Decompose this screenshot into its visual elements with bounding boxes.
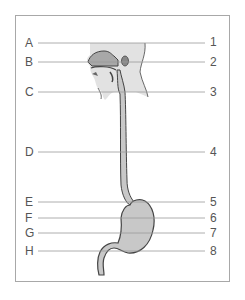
label-1: 1 [210,36,217,48]
label-d: D [25,146,34,158]
stomach [98,200,155,275]
label-e: E [25,196,33,208]
label-4: 4 [210,146,217,158]
label-5: 5 [210,196,217,208]
label-8: 8 [210,245,217,257]
label-3: 3 [210,86,217,98]
label-7: 7 [210,227,217,239]
ear [122,56,129,66]
label-b: B [25,56,33,68]
label-f: F [25,212,32,224]
label-c: C [25,86,34,98]
label-2: 2 [210,56,217,68]
label-h: H [25,245,34,257]
label-6: 6 [210,212,217,224]
anatomy-illustration [0,0,245,300]
label-g: G [25,227,34,239]
label-a: A [25,37,33,49]
